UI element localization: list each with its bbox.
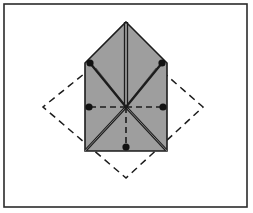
dot-left-icon [85,103,92,110]
dot-bottom-icon [122,143,129,150]
crease-pattern-diagram [0,0,253,213]
dot-upper-right-icon [158,59,165,66]
center-convergence-point [124,105,127,108]
figure-container: Folded paper diagram with radial crease … [0,0,253,213]
dot-upper-left-icon [86,59,93,66]
dot-right-icon [159,103,166,110]
